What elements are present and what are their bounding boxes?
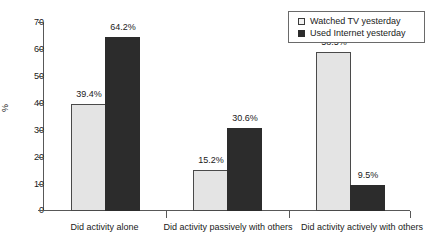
legend: Watched TV yesterday Used Internet yeste… [288, 11, 425, 43]
y-tick-mark-50 [38, 76, 44, 77]
category-label-passive: Did activity passively with others [152, 222, 304, 232]
bar-tv-alone [71, 104, 106, 211]
legend-item-watched-tv: Watched TV yesterday [298, 16, 401, 27]
dark-swatch-icon [298, 30, 305, 37]
category-separator-tick-2 [289, 211, 290, 218]
legend-label-used-internet: Used Internet yesterday [310, 29, 406, 38]
category-separator-tick-1 [166, 211, 167, 218]
bar-internet-passive [227, 128, 262, 211]
category-label-alone: Did activity alone [43, 222, 166, 232]
y-tick-mark-40 [38, 103, 44, 104]
light-swatch-icon [298, 18, 305, 25]
y-tick-mark-60 [38, 49, 44, 50]
bar-label-internet-alone: 64.2% [95, 23, 151, 32]
bar-internet-active [350, 185, 385, 211]
bar-chart: % 70 60 50 40 30 20 10 0 39.4% 64.2% Did… [0, 0, 433, 247]
y-tick-mark-0 [38, 210, 44, 211]
y-tick-mark-10 [38, 184, 44, 185]
y-tick-mark-70 [38, 22, 44, 23]
y-tick-mark-30 [38, 130, 44, 131]
bar-tv-passive [193, 170, 228, 211]
bar-internet-alone [105, 37, 140, 211]
category-separator-tick-3 [410, 211, 411, 218]
y-tick-mark-20 [38, 157, 44, 158]
category-label-active: Did activity actively with others [291, 222, 433, 232]
bar-tv-active [316, 52, 351, 211]
legend-item-used-internet: Used Internet yesterday [298, 28, 406, 39]
legend-label-watched-tv: Watched TV yesterday [310, 17, 401, 26]
bar-label-internet-passive: 30.6% [217, 114, 273, 123]
bar-label-internet-active: 9.5% [340, 171, 396, 180]
